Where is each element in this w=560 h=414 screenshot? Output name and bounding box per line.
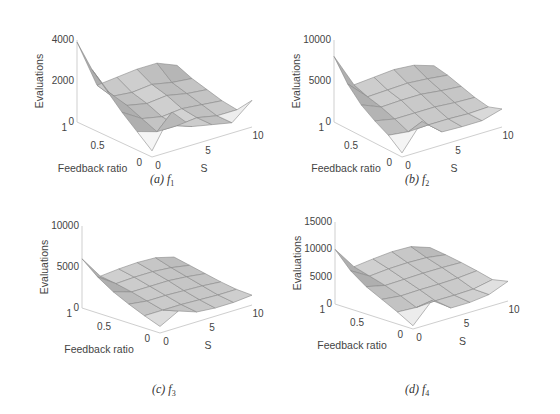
- y-tick-label: 0: [144, 333, 150, 344]
- surface-plot-a: 02000400000.510510EvaluationsFeedback ra…: [0, 0, 280, 207]
- subplot-c: 050001000000.510510EvaluationsFeedback r…: [0, 207, 280, 414]
- x-tick-label: 5: [455, 145, 461, 156]
- z-tick-label: 0: [325, 116, 331, 127]
- z-axis-label: Evaluations: [290, 54, 302, 108]
- x-axis-line: [152, 127, 252, 157]
- x-tick-label: 5: [464, 318, 470, 329]
- y-tick-label: 0.5: [344, 140, 358, 151]
- y-tick-label: 0: [136, 157, 142, 168]
- x-tick-label: 10: [252, 130, 264, 141]
- caption-b: (b) f2: [405, 172, 429, 188]
- z-axis-label: Evaluations: [38, 240, 50, 294]
- z-tick-label: 0: [68, 116, 74, 127]
- y-axis-label: Feedback ratio: [311, 162, 381, 174]
- x-axis-label: S: [204, 339, 211, 351]
- caption-a: (a) f1: [150, 172, 174, 188]
- z-tick-label: 10000: [51, 220, 79, 231]
- z-tick-label: 2000: [52, 75, 75, 86]
- x-tick-label: 10: [508, 304, 520, 315]
- z-tick-label: 10000: [303, 34, 331, 45]
- subplot-d: 05000100001500000.510510EvaluationsFeedb…: [280, 207, 560, 414]
- x-tick-label: 10: [502, 130, 514, 141]
- x-axis-label: S: [459, 335, 466, 347]
- z-tick-label: 5000: [57, 261, 80, 272]
- z-tick-label: 0: [326, 298, 332, 309]
- y-tick-label: 0.5: [97, 321, 111, 332]
- x-tick-label: 5: [205, 145, 211, 156]
- x-axis-label: S: [200, 162, 207, 174]
- x-axis-line: [402, 127, 502, 157]
- x-tick-label: 0: [416, 332, 422, 343]
- z-tick-label: 15000: [304, 216, 332, 227]
- y-tick-label: 1: [61, 122, 67, 133]
- z-axis-label: Evaluations: [291, 236, 303, 290]
- z-tick-label: 10000: [304, 243, 332, 254]
- y-tick-label: 1: [318, 122, 324, 133]
- z-tick-label: 5000: [310, 271, 333, 282]
- surface-plot-c: 050001000000.510510EvaluationsFeedback r…: [0, 207, 280, 414]
- z-tick-label: 5000: [309, 75, 332, 86]
- x-tick-label: 10: [252, 308, 264, 319]
- x-axis-label: S: [450, 162, 457, 174]
- y-axis-label: Feedback ratio: [58, 162, 128, 174]
- x-tick-label: 0: [405, 160, 411, 171]
- subplot-a: 02000400000.510510EvaluationsFeedback ra…: [0, 0, 280, 207]
- z-axis-label: Evaluations: [33, 54, 45, 108]
- y-tick-label: 0.5: [91, 140, 105, 151]
- x-tick-label: 0: [155, 160, 161, 171]
- caption-d: (d) f4: [405, 382, 429, 398]
- y-axis-label: Feedback ratio: [64, 343, 134, 355]
- x-tick-label: 5: [209, 322, 215, 333]
- x-tick-label: 0: [163, 336, 169, 347]
- z-tick-label: 0: [73, 302, 79, 313]
- y-tick-label: 0.5: [350, 317, 364, 328]
- y-tick-label: 1: [319, 304, 325, 315]
- z-tick-label: 4000: [52, 34, 75, 45]
- caption-c: (c) f3: [152, 382, 176, 398]
- subplot-b: 050001000000.510510EvaluationsFeedback r…: [280, 0, 560, 207]
- y-tick-label: 0: [397, 329, 403, 340]
- y-axis-label: Feedback ratio: [317, 339, 387, 351]
- y-tick-label: 0: [386, 157, 392, 168]
- y-tick-label: 1: [66, 308, 72, 319]
